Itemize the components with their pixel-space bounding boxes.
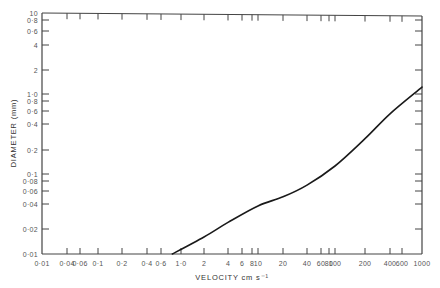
y-tick-label: 0·6 [27, 28, 38, 35]
y-axis-title: DIAMETER (mm) [9, 99, 18, 168]
x-tick-label: 10 [254, 260, 262, 267]
x-tick-label: 40 [303, 260, 311, 267]
x-tick-label: 4 [226, 260, 230, 267]
plot-frame [42, 13, 422, 254]
y-tick-label: 0·01 [23, 251, 38, 258]
y-tick-label: 0·2 [27, 147, 38, 154]
y-tick-label: 0·4 [27, 121, 38, 128]
x-tick-label: 20 [279, 260, 287, 267]
y-tick-label: 0·1 [27, 171, 38, 178]
y-tick-label: 1·0 [27, 91, 38, 98]
y-tick-label: 0·8 [27, 17, 38, 24]
x-tick-label: 0·1 [92, 260, 103, 267]
data-curve [172, 87, 422, 254]
x-tick-label: 100 [329, 260, 342, 267]
x-tick-label: 1000 [414, 260, 431, 267]
y-tick-label: 2 [34, 67, 38, 74]
x-tick-label: 0·6 [155, 260, 166, 267]
x-tick-label: 0·2 [116, 260, 127, 267]
y-tick-label: 4 [34, 42, 38, 49]
x-tick-label: 0·4 [141, 260, 152, 267]
y-tick-label: 0·08 [23, 178, 38, 185]
x-tick-label: 600 [396, 260, 409, 267]
y-tick-label: 0·02 [23, 226, 38, 233]
x-tick-label: 6 [240, 260, 244, 267]
y-tick-label: 0·04 [23, 201, 38, 208]
y-tick-label: 0·8 [27, 98, 38, 105]
x-axis-title: VELOCITY cm s⁻¹ [195, 273, 268, 282]
x-tick-label: 2 [202, 260, 206, 267]
x-tick-label: 1·0 [175, 260, 186, 267]
x-tick-label: 400 [384, 260, 397, 267]
x-tick-label: 0·01 [34, 260, 49, 267]
x-tick-label: 0·06 [72, 260, 87, 267]
chart: 0·010·040·060·10·20·40·61·02468102040608… [0, 0, 440, 288]
y-axis-tick-labels: 100·80·6421·00·80·60·40·20·10·080·060·04… [23, 10, 38, 258]
y-tick-label: 10 [30, 10, 38, 17]
y-axis-ticks [42, 20, 422, 229]
y-tick-label: 0·06 [23, 188, 38, 195]
x-tick-label: 200 [359, 260, 372, 267]
x-axis-tick-labels: 0·010·040·060·10·20·40·61·02468102040608… [34, 260, 430, 267]
y-tick-label: 0·6 [27, 108, 38, 115]
